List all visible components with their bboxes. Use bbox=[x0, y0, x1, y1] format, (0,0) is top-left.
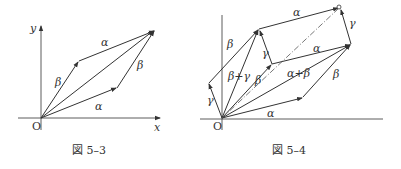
label-beta-inner: β bbox=[254, 74, 261, 87]
vector-alpha-mid bbox=[272, 45, 350, 64]
label-alpha-top: α bbox=[293, 6, 301, 19]
label-gamma-left: γ bbox=[207, 94, 214, 107]
diagram-canvas: y x O β α α β O γ β β+γ β γ α γ α α+β β … bbox=[0, 0, 401, 169]
label-alpha-plus-beta: α+β bbox=[287, 67, 310, 80]
vector-beta-right bbox=[117, 31, 154, 88]
label-gamma-mid: γ bbox=[262, 47, 269, 60]
vector-beta-left bbox=[41, 62, 78, 118]
vector-alpha-bottom bbox=[41, 88, 116, 118]
figure-5-3 bbox=[18, 26, 160, 130]
vector-alpha-top bbox=[79, 31, 154, 61]
label-beta-left: β bbox=[226, 38, 233, 51]
figure-caption-5-4: 図 5–4 bbox=[272, 141, 306, 157]
vector-beta-right bbox=[303, 45, 350, 97]
label-gamma-right: γ bbox=[349, 17, 356, 30]
label-beta-right: β bbox=[136, 59, 143, 72]
label-alpha-top: α bbox=[101, 36, 109, 49]
label-beta-plus-gamma: β+γ bbox=[227, 70, 251, 83]
origin-label: O bbox=[32, 120, 41, 133]
label-alpha-mid: α bbox=[313, 42, 321, 55]
diagonal-dashdot bbox=[222, 9, 338, 118]
y-axis-label: y bbox=[29, 22, 37, 35]
figure-caption-5-3: 図 5–3 bbox=[72, 141, 106, 157]
endpoint-circle bbox=[337, 5, 341, 9]
label-alpha-bottom: α bbox=[267, 107, 275, 120]
label-beta-right: β bbox=[332, 68, 339, 81]
label-beta-left: β bbox=[54, 76, 61, 89]
origin-label: O bbox=[213, 120, 222, 133]
vector-alpha-bottom bbox=[222, 98, 302, 118]
x-axis-label: x bbox=[154, 121, 161, 134]
label-alpha-bottom: α bbox=[95, 100, 103, 113]
